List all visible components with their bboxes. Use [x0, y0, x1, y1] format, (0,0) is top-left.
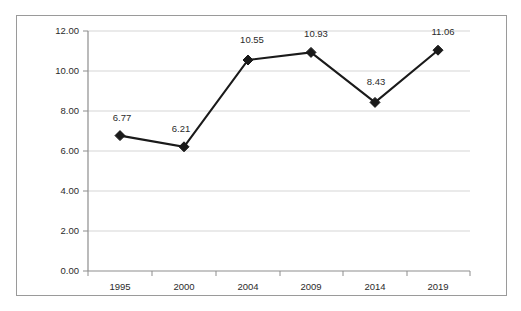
y-axis-label-0: 0.00	[61, 265, 80, 276]
data-label-2014: 8.43	[367, 76, 386, 87]
x-axis-labels: 1995 2000 2004 2009 2014 2019	[109, 281, 448, 292]
y-axis-labels: 12.00 10.00 8.00 6.00 4.00 2.00 0.00	[55, 25, 79, 276]
data-label-2019: 11.06	[431, 26, 454, 37]
data-label-2009: 10.93	[304, 28, 328, 39]
x-axis-label-2000: 2000	[173, 281, 194, 292]
plot-area: 12.00 10.00 8.00 6.00 4.00 2.00 0.00 199…	[0, 0, 521, 311]
y-axis-label-4: 4.00	[61, 185, 80, 196]
x-axis-label-1995: 1995	[109, 281, 130, 292]
x-axis-label-2019: 2019	[427, 281, 448, 292]
x-axis-label-2004: 2004	[237, 281, 258, 292]
x-axis-label-2009: 2009	[300, 281, 321, 292]
y-axis-label-12: 12.00	[55, 25, 79, 36]
y-axis-ticks	[83, 31, 88, 271]
series-line	[120, 50, 438, 147]
data-label-2004: 10.55	[240, 34, 264, 45]
x-axis-ticks	[88, 271, 470, 276]
gridlines	[88, 31, 470, 231]
series-markers	[115, 45, 443, 152]
y-axis-label-6: 6.00	[61, 145, 80, 156]
line-chart: 12.00 10.00 8.00 6.00 4.00 2.00 0.00 199…	[0, 0, 521, 311]
y-axis-label-2: 2.00	[61, 225, 80, 236]
x-axis-label-2014: 2014	[364, 281, 385, 292]
data-label-2000: 6.21	[172, 123, 191, 134]
data-label-1995: 6.77	[113, 112, 132, 123]
y-axis-label-8: 8.00	[61, 105, 80, 116]
y-axis-label-10: 10.00	[55, 65, 79, 76]
data-point-1995	[115, 131, 125, 141]
